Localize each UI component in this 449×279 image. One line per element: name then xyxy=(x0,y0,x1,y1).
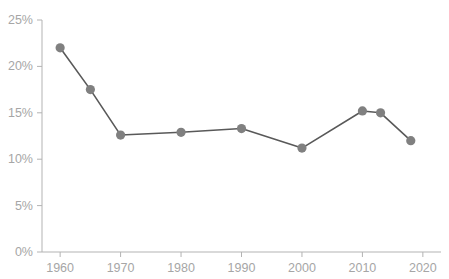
x-axis-tick-label: 1970 xyxy=(107,261,135,275)
data-point-marker xyxy=(86,85,95,94)
data-point-marker xyxy=(56,43,65,52)
x-axis-tick-label: 2020 xyxy=(409,261,437,275)
y-axis-tick-label: 25% xyxy=(8,13,33,27)
data-point-marker xyxy=(376,108,385,117)
chart-plot-area xyxy=(0,0,449,279)
line-chart: 0%5%10%15%20%25%196019701980199020002010… xyxy=(0,0,449,279)
data-point-marker xyxy=(176,128,185,137)
x-axis-tick-label: 1990 xyxy=(228,261,256,275)
y-axis-tick-label: 5% xyxy=(15,199,33,213)
y-axis-tick-label: 20% xyxy=(8,59,33,73)
data-point-marker xyxy=(297,143,306,152)
data-point-marker xyxy=(116,130,125,139)
data-point-marker xyxy=(358,106,367,115)
y-axis-tick-label: 10% xyxy=(8,152,33,166)
x-axis-tick-label: 1980 xyxy=(167,261,195,275)
y-axis-tick-label: 0% xyxy=(15,245,33,259)
series-line xyxy=(60,48,411,148)
x-axis-tick-label: 2010 xyxy=(349,261,377,275)
y-axis-tick-label: 15% xyxy=(8,106,33,120)
x-axis-tick-label: 1960 xyxy=(46,261,74,275)
data-point-marker xyxy=(406,136,415,145)
x-axis-tick-label: 2000 xyxy=(288,261,316,275)
data-point-marker xyxy=(237,124,246,133)
